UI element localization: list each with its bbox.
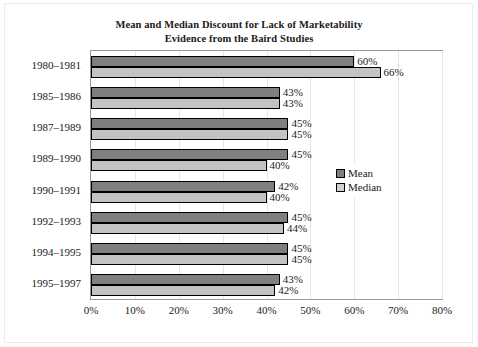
x-axis-tick-label: 80%	[432, 303, 452, 318]
bars-layer: 60%66%43%43%45%45%45%40%42%40%45%44%45%4…	[91, 51, 442, 299]
bar-row: 43%	[91, 98, 442, 109]
bar-row: 45%	[91, 212, 442, 223]
bar-row: 45%	[91, 254, 442, 265]
bar-row: 43%	[91, 274, 442, 285]
x-axis-tick-label: 10%	[125, 303, 145, 318]
chart-title-line1: Mean and Median Discount for Lack of Mar…	[0, 18, 478, 32]
bar-mean	[91, 243, 288, 254]
bar-group: 42%40%	[91, 181, 442, 203]
bar-value-label: 45%	[291, 251, 311, 267]
bar-group: 60%66%	[91, 56, 442, 78]
legend-item-mean: Mean	[336, 166, 382, 180]
bar-group: 45%44%	[91, 212, 442, 234]
y-axis-label: 1980–1981	[32, 59, 82, 72]
bar-value-label: 45%	[291, 126, 311, 142]
bar-group: 43%43%	[91, 87, 442, 109]
bar-mean	[91, 87, 280, 98]
bar-mean	[91, 118, 288, 129]
bar-group: 45%45%	[91, 118, 442, 140]
bar-row: 45%	[91, 149, 442, 160]
y-axis-label: 1995–1997	[32, 277, 82, 290]
bar-value-label: 42%	[278, 282, 298, 298]
bar-row: 44%	[91, 223, 442, 234]
x-axis-tick-label: 20%	[169, 303, 189, 318]
y-axis-label: 1994–1995	[32, 246, 82, 259]
bar-group: 45%40%	[91, 149, 442, 171]
bar-value-label: 43%	[283, 95, 303, 111]
bar-median	[91, 98, 280, 109]
bar-mean	[91, 274, 280, 285]
legend-swatch-mean-icon	[336, 169, 345, 178]
x-axis-tick-label: 60%	[344, 303, 364, 318]
x-axis-tick-label: 50%	[300, 303, 320, 318]
bar-row: 45%	[91, 118, 442, 129]
bar-row: 45%	[91, 129, 442, 140]
bar-row: 66%	[91, 67, 442, 78]
bar-value-label: 40%	[270, 157, 290, 173]
x-axis-tick-label: 0%	[84, 303, 99, 318]
bar-median	[91, 192, 267, 203]
y-axis-label: 1987–1989	[32, 121, 82, 134]
y-axis-label: 1985–1986	[32, 90, 82, 103]
bar-row: 43%	[91, 87, 442, 98]
bar-mean	[91, 212, 288, 223]
bar-row: 40%	[91, 160, 442, 171]
bar-mean	[91, 56, 354, 67]
chart-title-line2: Evidence from the Baird Studies	[0, 32, 478, 46]
legend-item-median: Median	[336, 180, 382, 194]
legend-label-median: Median	[348, 181, 382, 194]
y-axis-label: 1989–1990	[32, 152, 82, 165]
bar-median	[91, 67, 381, 78]
y-axis-category-labels: 1980–19811985–19861987–19891989–19901990…	[0, 50, 86, 300]
bar-mean	[91, 149, 288, 160]
bar-median	[91, 254, 288, 265]
bar-value-label: 66%	[384, 64, 404, 80]
bar-group: 43%42%	[91, 274, 442, 296]
bar-value-label: 44%	[287, 220, 307, 236]
x-axis-tick-label: 70%	[388, 303, 408, 318]
chart-container: Mean and Median Discount for Lack of Mar…	[0, 0, 478, 347]
x-axis-tick-labels: 0%10%20%30%40%50%60%70%80%	[0, 303, 478, 323]
legend-swatch-median-icon	[336, 183, 345, 192]
bar-median	[91, 129, 288, 140]
plot-area: 60%66%43%43%45%45%45%40%42%40%45%44%45%4…	[90, 50, 443, 300]
bar-row: 40%	[91, 192, 442, 203]
bar-group: 45%45%	[91, 243, 442, 265]
bar-mean	[91, 181, 275, 192]
bar-median	[91, 160, 267, 171]
bar-row: 42%	[91, 285, 442, 296]
bar-row: 45%	[91, 243, 442, 254]
y-axis-label: 1992–1993	[32, 215, 82, 228]
bar-median	[91, 285, 275, 296]
bar-value-label: 40%	[270, 189, 290, 205]
bar-row: 42%	[91, 181, 442, 192]
x-axis-tick-label: 40%	[256, 303, 276, 318]
y-axis-label: 1990–1991	[32, 184, 82, 197]
legend-label-mean: Mean	[348, 167, 373, 180]
x-axis-tick-label: 30%	[213, 303, 233, 318]
chart-legend: Mean Median	[331, 163, 388, 198]
chart-title: Mean and Median Discount for Lack of Mar…	[0, 18, 478, 45]
bar-median	[91, 223, 284, 234]
gridline	[442, 51, 443, 299]
